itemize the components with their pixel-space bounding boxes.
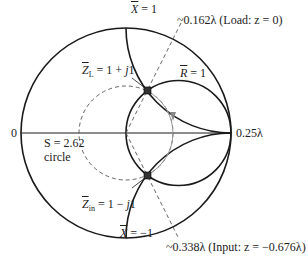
input-position-label: ~0.338λ (Input: z = −0.676λ)	[166, 241, 306, 253]
load-position-label: ~0.162λ (Load: z = 0)	[177, 14, 282, 26]
x-plus-one-label: X = 1	[131, 3, 157, 15]
input-point-marker	[144, 172, 151, 179]
r-one-label: R = 1	[180, 67, 206, 79]
zl-leader	[132, 78, 145, 88]
swr-circle-label: circle	[44, 151, 71, 163]
load-point-marker	[144, 87, 151, 94]
x-minus-one-label: X = −1	[120, 227, 153, 239]
swr-label: S = 2.62	[44, 137, 84, 149]
right-end-label: 0.25λ	[236, 127, 263, 139]
zl-label: ZL = 1 + j1	[82, 64, 134, 79]
zin-label: Zin = 1 − j1	[82, 198, 136, 213]
left-end-label: 0	[11, 127, 17, 139]
